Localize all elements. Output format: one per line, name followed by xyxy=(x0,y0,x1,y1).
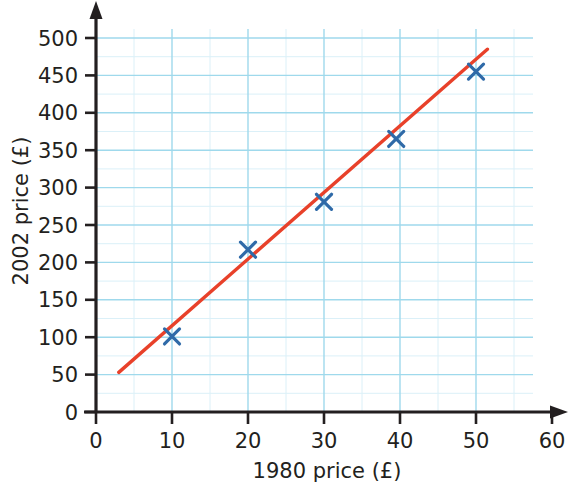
y-axis-tick-label: 400 xyxy=(38,101,78,125)
x-axis-tick-label: 50 xyxy=(463,429,490,453)
x-axis-tick-label: 10 xyxy=(159,429,186,453)
x-axis-tick-label: 20 xyxy=(235,429,262,453)
y-axis-tick-label: 200 xyxy=(38,251,78,275)
y-axis-tick-label: 350 xyxy=(38,139,78,163)
scatter-chart: 050100150200250300350400450500 010203040… xyxy=(0,0,585,489)
y-axis-tick-label: 450 xyxy=(38,64,78,88)
y-axis-tick-label: 150 xyxy=(38,288,78,312)
chart-background xyxy=(0,0,585,489)
x-axis-tick-label: 30 xyxy=(311,429,338,453)
x-axis-tick-label: 0 xyxy=(89,429,102,453)
y-axis-tick-label: 300 xyxy=(38,176,78,200)
y-axis-tick-label: 500 xyxy=(38,27,78,51)
y-axis-tick-label: 250 xyxy=(38,214,78,238)
chart-canvas: 050100150200250300350400450500 010203040… xyxy=(0,0,585,489)
x-axis-tick-label: 60 xyxy=(539,429,566,453)
x-axis-title: 1980 price (£) xyxy=(253,459,402,483)
y-axis-tick-label: 50 xyxy=(51,363,78,387)
y-axis-tick-label: 0 xyxy=(65,401,78,425)
y-axis-tick-label: 100 xyxy=(38,326,78,350)
y-axis-title: 2002 price (£) xyxy=(9,137,33,286)
x-axis-tick-label: 40 xyxy=(387,429,414,453)
